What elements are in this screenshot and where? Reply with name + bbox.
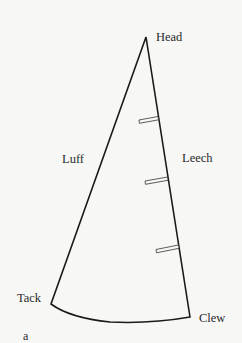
sail-outline — [51, 37, 190, 322]
label-head: Head — [156, 31, 182, 44]
label-clew: Clew — [199, 312, 225, 325]
batten-3 — [156, 245, 179, 253]
batten-1 — [139, 117, 159, 124]
label-luff: Luff — [62, 153, 84, 166]
label-tack: Tack — [17, 292, 41, 305]
batten-2 — [145, 177, 168, 184]
label-leech: Leech — [182, 152, 213, 165]
figure-label: a — [23, 330, 28, 342]
battens — [139, 117, 179, 253]
